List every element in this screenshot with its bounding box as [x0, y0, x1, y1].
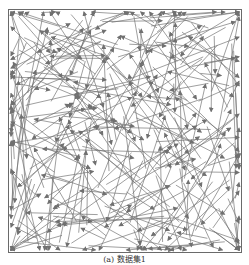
- arrow: [138, 221, 162, 231]
- arrow: [168, 72, 229, 86]
- arrow: [153, 67, 239, 151]
- arrow: [11, 12, 24, 49]
- arrow: [73, 12, 130, 38]
- arrow: [42, 171, 94, 179]
- arrow: [186, 180, 188, 235]
- arrow: [186, 46, 239, 61]
- arrow: [211, 55, 212, 112]
- arrow: [18, 12, 52, 42]
- arrow: [11, 20, 83, 113]
- arrow: [207, 127, 229, 191]
- arrow: [71, 130, 170, 207]
- figure: (a) 数据集1: [0, 0, 249, 265]
- arrow: [217, 17, 239, 139]
- arrow: [21, 108, 97, 118]
- arrow: [23, 242, 95, 250]
- arrow: [113, 64, 189, 153]
- arrow: [45, 137, 59, 250]
- arrow: [98, 92, 136, 188]
- arrow: [11, 159, 35, 227]
- figure-caption: (a) 数据集1: [0, 254, 249, 265]
- arrow-group: [11, 12, 239, 250]
- arrow: [56, 12, 60, 14]
- arrow: [142, 59, 185, 170]
- arrow: [182, 32, 239, 77]
- arrow: [201, 172, 239, 173]
- arrow: [20, 71, 36, 150]
- arrow: [13, 62, 25, 82]
- arrow: [78, 35, 121, 99]
- arrow: [23, 208, 48, 250]
- arrow: [41, 12, 55, 13]
- arrow: [32, 105, 79, 139]
- arrow: [130, 116, 165, 223]
- arrow-field: [8, 9, 242, 253]
- arrow: [136, 118, 194, 143]
- arrow: [199, 83, 240, 101]
- arrow: [11, 79, 44, 105]
- arrow: [75, 95, 134, 183]
- arrow: [102, 21, 162, 22]
